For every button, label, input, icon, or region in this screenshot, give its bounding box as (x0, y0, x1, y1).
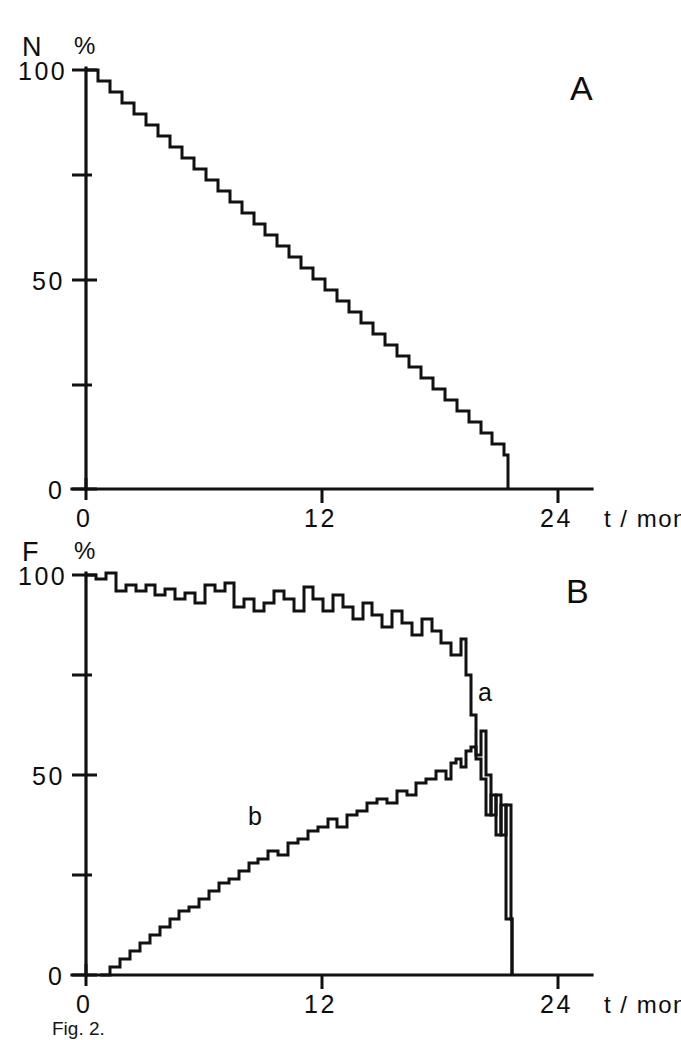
panel-a-letter: A (570, 69, 593, 107)
panel-b-ylabel-50: 50 (32, 762, 65, 790)
panel-a: N % 100 50 0 0 12 24 t / mon A (0, 0, 681, 520)
panel-b-xlabel-12: 12 (304, 990, 337, 1018)
figure-caption: Fig. 2. (52, 1018, 681, 1040)
panel-b-xlabel-0: 0 (76, 990, 92, 1018)
panel-a-curve-n (86, 70, 508, 489)
panel-a-ylabel-0: 0 (48, 476, 64, 504)
panel-b-y-unit: % (74, 537, 97, 564)
panel-a-ylabel-50: 50 (32, 267, 65, 295)
panel-a-plot: N % 100 50 0 0 12 24 t / mon A (0, 0, 681, 520)
panel-b: F % 100 50 0 0 12 24 t / mon B a b (0, 515, 681, 1015)
panel-a-ylabel-100: 100 (18, 57, 67, 85)
panel-a-y-unit: % (74, 32, 97, 59)
panel-b-curve-a (86, 573, 512, 975)
panel-b-curve-a-label: a (478, 678, 492, 706)
panel-b-ylabel-100: 100 (18, 562, 67, 590)
panel-b-xlabel-24: 24 (540, 990, 573, 1018)
panel-b-ylabel-0: 0 (48, 962, 64, 990)
panel-b-letter: B (566, 572, 589, 610)
panel-b-curve-b (100, 747, 512, 975)
panel-b-plot: F % 100 50 0 0 12 24 t / mon B a b (0, 515, 681, 1015)
panel-b-x-axis-label: t / mon (604, 991, 681, 1018)
panel-b-curve-b-label: b (248, 802, 262, 830)
